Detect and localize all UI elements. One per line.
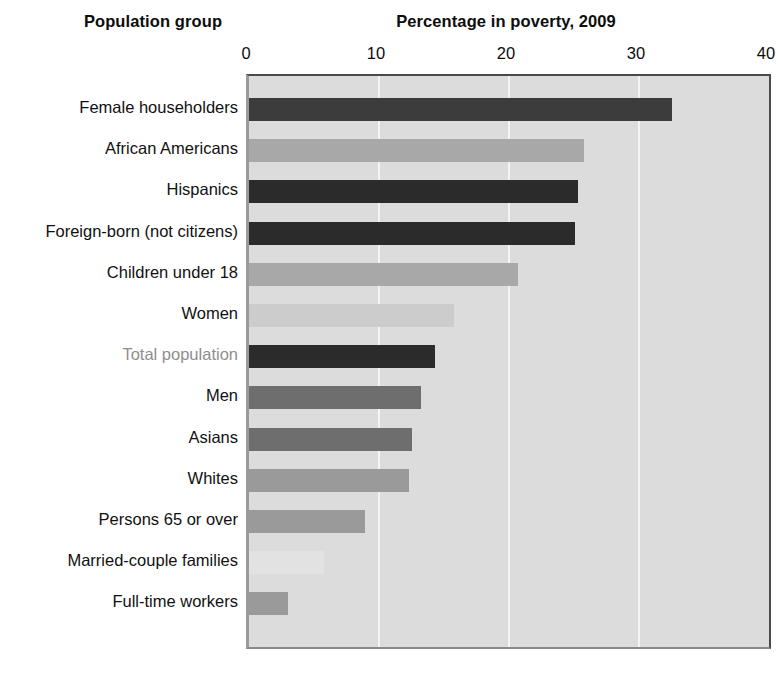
bar bbox=[249, 345, 435, 368]
chart-title: Percentage in poverty, 2009 bbox=[246, 12, 766, 31]
x-tick-label-10: 10 bbox=[367, 44, 385, 63]
bar bbox=[249, 98, 672, 121]
bar bbox=[249, 428, 412, 451]
category-label: Total population bbox=[0, 345, 238, 364]
category-label: Men bbox=[0, 386, 238, 405]
bar bbox=[249, 139, 584, 162]
category-label: Women bbox=[0, 304, 238, 323]
x-tick-label-30: 30 bbox=[627, 44, 645, 63]
category-label: Full-time workers bbox=[0, 592, 238, 611]
category-label: Foreign-born (not citizens) bbox=[0, 222, 238, 241]
category-label: African Americans bbox=[0, 139, 238, 158]
plot-area bbox=[246, 74, 771, 649]
category-label: Children under 18 bbox=[0, 263, 238, 282]
bar bbox=[249, 592, 288, 615]
category-label: Asians bbox=[0, 428, 238, 447]
bar bbox=[249, 263, 518, 286]
poverty-bar-chart: Population group Percentage in poverty, … bbox=[0, 0, 779, 678]
x-tick-label-20: 20 bbox=[497, 44, 515, 63]
bar bbox=[249, 551, 324, 574]
category-label: Persons 65 or over bbox=[0, 510, 238, 529]
bar bbox=[249, 222, 575, 245]
bar bbox=[249, 510, 365, 533]
category-label: Hispanics bbox=[0, 180, 238, 199]
category-label: Female householders bbox=[0, 98, 238, 117]
population-group-header: Population group bbox=[60, 12, 246, 31]
x-tick-label-0: 0 bbox=[241, 44, 250, 63]
x-tick-label-40: 40 bbox=[757, 44, 775, 63]
x-axis-tick-labels: 010203040 bbox=[0, 44, 779, 68]
category-axis-labels: Female householdersAfrican AmericansHisp… bbox=[0, 74, 238, 645]
category-label: Whites bbox=[0, 469, 238, 488]
bar-series bbox=[249, 76, 769, 647]
bar bbox=[249, 386, 421, 409]
bar bbox=[249, 180, 578, 203]
bar bbox=[249, 304, 454, 327]
bar bbox=[249, 469, 409, 492]
category-label: Married-couple families bbox=[0, 551, 238, 570]
